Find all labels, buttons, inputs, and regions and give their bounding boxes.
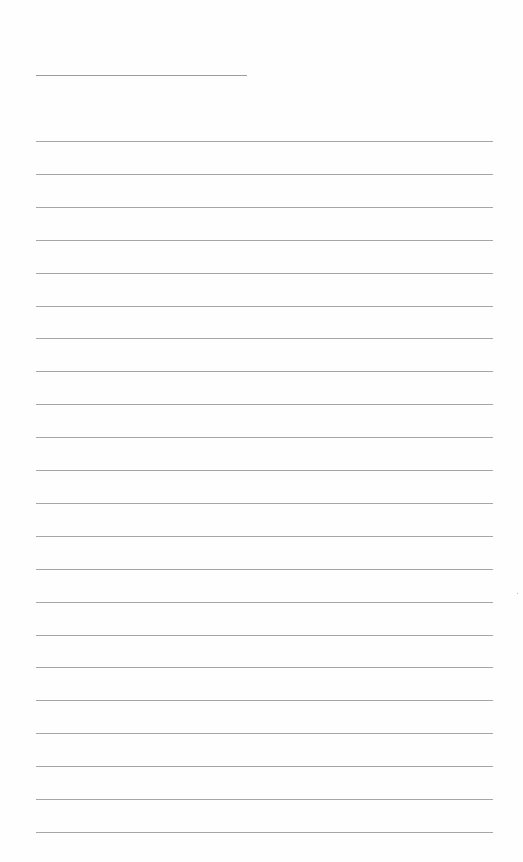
- ruled-line: [36, 141, 493, 142]
- ruled-line: [36, 503, 493, 504]
- ruled-line: [36, 700, 493, 701]
- paper-speck: [517, 593, 518, 594]
- title-line: [36, 75, 247, 76]
- ruled-line: [36, 306, 493, 307]
- ruled-line: [36, 733, 493, 734]
- ruled-line: [36, 371, 493, 372]
- lined-paper-page: [0, 0, 523, 862]
- ruled-line: [36, 437, 493, 438]
- ruled-line: [36, 569, 493, 570]
- ruled-line: [36, 404, 493, 405]
- ruled-line: [36, 207, 493, 208]
- ruled-line: [36, 240, 493, 241]
- ruled-line: [36, 766, 493, 767]
- ruled-line: [36, 338, 493, 339]
- ruled-line: [36, 470, 493, 471]
- ruled-line: [36, 832, 493, 833]
- ruled-line: [36, 635, 493, 636]
- ruled-line: [36, 799, 493, 800]
- ruled-line: [36, 602, 493, 603]
- ruled-line: [36, 273, 493, 274]
- ruled-line: [36, 174, 493, 175]
- ruled-line: [36, 536, 493, 537]
- ruled-line: [36, 667, 493, 668]
